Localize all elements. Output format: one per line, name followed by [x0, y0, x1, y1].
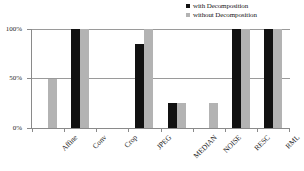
y-tick-label-100: 100%	[6, 25, 22, 33]
bars-layer	[32, 29, 289, 128]
x-axis-label-rml: RML	[284, 133, 302, 151]
bar-group	[161, 29, 193, 128]
x-axis-labels: AffineConvCropJPEGMEDIANNOISERESCRML	[32, 133, 289, 171]
bar-without-decomposition	[273, 29, 282, 128]
bar-group	[128, 29, 160, 128]
bar-without-decomposition	[209, 103, 218, 128]
x-axis-label-jpeg: JPEG	[155, 133, 173, 151]
legend-label-with-decomposition: with Decomposition	[193, 2, 248, 10]
legend-entry-with-decomposition: with Decomposition	[186, 2, 302, 10]
x-axis-label-affine: Affine	[60, 133, 80, 153]
bar-with-decomposition	[71, 29, 80, 128]
bar-without-decomposition	[144, 29, 153, 128]
x-axis-ticks	[32, 128, 289, 132]
bar-without-decomposition	[80, 29, 89, 128]
bar-group	[32, 29, 64, 128]
x-tick-mark	[128, 128, 129, 132]
x-axis-label-crop: Crop	[123, 133, 140, 150]
bar-without-decomposition	[177, 103, 186, 128]
x-tick-mark	[257, 128, 258, 132]
chart-legend: with Decomposition without Decomposition	[186, 2, 302, 19]
y-axis: 100% 50% 0%	[0, 0, 29, 171]
y-tick-label-0: 0%	[13, 124, 22, 132]
x-tick-mark	[289, 128, 290, 132]
legend-swatch-icon-without-decomposition	[186, 13, 190, 17]
x-tick-mark	[64, 128, 65, 132]
bar-with-decomposition	[232, 29, 241, 128]
x-tick-mark	[193, 128, 194, 132]
legend-entry-without-decomposition: without Decomposition	[186, 11, 302, 19]
x-axis-label-median: MEDIAN	[191, 133, 218, 160]
bar-with-decomposition	[264, 29, 273, 128]
legend-swatch-icon-with-decomposition	[186, 4, 190, 8]
x-tick-mark	[96, 128, 97, 132]
bar-with-decomposition	[135, 44, 144, 128]
y-tick-label-50: 50%	[9, 74, 22, 82]
bar-group	[257, 29, 289, 128]
legend-label-without-decomposition: without Decomposition	[193, 11, 257, 19]
x-tick-mark	[225, 128, 226, 132]
bar-group	[193, 29, 225, 128]
bar-group	[96, 29, 128, 128]
x-tick-mark	[32, 128, 33, 132]
x-axis-label-conv: Conv	[91, 133, 109, 151]
bar-chart: with Decomposition without Decomposition…	[0, 0, 304, 171]
bar-without-decomposition	[241, 29, 250, 128]
bar-without-decomposition	[48, 79, 57, 129]
bar-with-decomposition	[168, 103, 177, 128]
x-tick-mark	[161, 128, 162, 132]
bar-group	[225, 29, 257, 128]
x-axis-label-noise: NOISE	[221, 133, 243, 155]
bar-group	[64, 29, 96, 128]
x-axis-label-resc: RESC	[252, 133, 271, 152]
